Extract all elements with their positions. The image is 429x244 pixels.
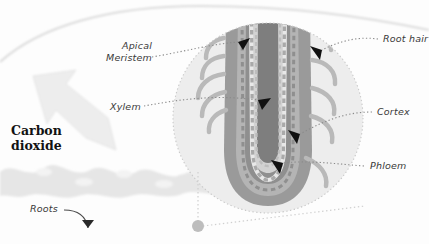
carbon-dioxide-label: Carbon dioxide xyxy=(11,124,62,154)
root-core xyxy=(257,14,279,163)
scene-layer xyxy=(0,0,429,244)
apical-meristem-line-2: Meristem xyxy=(106,52,152,64)
label-roots: Roots xyxy=(30,203,58,215)
carbon-dioxide-line-1: Carbon xyxy=(11,124,62,139)
root-anatomy-diagram: Carbon dioxide Apical Meristem Xylem Roo… xyxy=(0,0,429,244)
callout-origin-dot xyxy=(192,220,204,232)
arrowhead-roots xyxy=(82,220,94,228)
leader-roots xyxy=(64,210,88,228)
carbon-dioxide-line-2: dioxide xyxy=(11,139,62,154)
label-phloem: Phloem xyxy=(370,160,407,172)
label-cortex: Cortex xyxy=(377,106,410,118)
label-xylem: Xylem xyxy=(110,101,141,113)
label-root-hair: Root hair xyxy=(383,33,428,45)
apical-meristem-line-1: Apical xyxy=(106,40,152,52)
label-apical-meristem: Apical Meristem xyxy=(106,40,152,64)
